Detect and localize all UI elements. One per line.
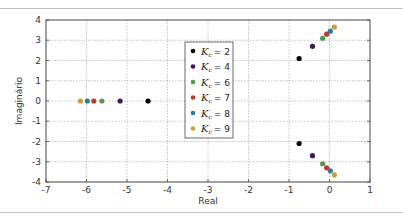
pole-point xyxy=(328,29,333,34)
y-tick-label: 0 xyxy=(35,96,41,106)
x-tick-label: 1 xyxy=(367,185,373,195)
legend: Kc= 2Kc= 4Kc= 6Kc= 7Kc= 8Kc= 9 xyxy=(185,42,233,138)
pole-point xyxy=(310,153,315,158)
legend-marker xyxy=(191,64,196,69)
y-tick-label: 2 xyxy=(35,56,41,66)
pole-point xyxy=(91,98,96,103)
x-tick-label: -6 xyxy=(82,185,91,195)
legend-marker xyxy=(191,111,196,116)
x-tick-label: -4 xyxy=(163,185,172,195)
pole-point xyxy=(310,44,315,49)
y-tick-label: 3 xyxy=(35,35,41,45)
x-tick-label: -1 xyxy=(285,185,294,195)
legend-marker xyxy=(191,80,196,85)
legend-label: Kc= 2 xyxy=(200,46,230,58)
y-tick-label: -2 xyxy=(32,137,41,147)
legend-label: Kc= 8 xyxy=(200,108,230,120)
y-tick-label: -1 xyxy=(32,116,41,126)
pole-point xyxy=(78,98,83,103)
x-axis-label: Real xyxy=(198,196,217,206)
legend-label: Kc= 9 xyxy=(200,123,230,135)
pole-point xyxy=(297,141,302,146)
root-locus-plot: -7-6-5-4-3-2-101-4-3-2-101234 Real Imagi… xyxy=(0,0,403,221)
legend-label: Kc= 6 xyxy=(200,77,230,89)
y-tick-label: 1 xyxy=(35,76,41,86)
y-axis-label: Imaginário xyxy=(14,76,24,125)
y-tick-label: -4 xyxy=(32,177,41,187)
pole-point xyxy=(99,98,104,103)
x-tick-label: 0 xyxy=(327,185,333,195)
x-tick-label: -3 xyxy=(204,185,213,195)
legend-label: Kc= 4 xyxy=(200,61,230,73)
x-tick-label: -5 xyxy=(123,185,132,195)
pole-point xyxy=(297,56,302,61)
pole-point xyxy=(328,168,333,173)
pole-point xyxy=(145,98,150,103)
pole-point xyxy=(320,161,325,166)
legend-marker xyxy=(191,49,196,54)
y-tick-label: -3 xyxy=(32,157,41,167)
legend-label: Kc= 7 xyxy=(200,92,230,104)
pole-point xyxy=(85,98,90,103)
legend-marker xyxy=(191,95,196,100)
pole-point xyxy=(320,36,325,41)
pole-point xyxy=(332,24,337,29)
x-tick-label: -2 xyxy=(244,185,253,195)
y-tick-label: 4 xyxy=(35,15,41,25)
pole-point xyxy=(332,172,337,177)
legend-marker xyxy=(191,126,196,131)
pole-point xyxy=(118,98,123,103)
x-tick-label: -7 xyxy=(42,185,51,195)
